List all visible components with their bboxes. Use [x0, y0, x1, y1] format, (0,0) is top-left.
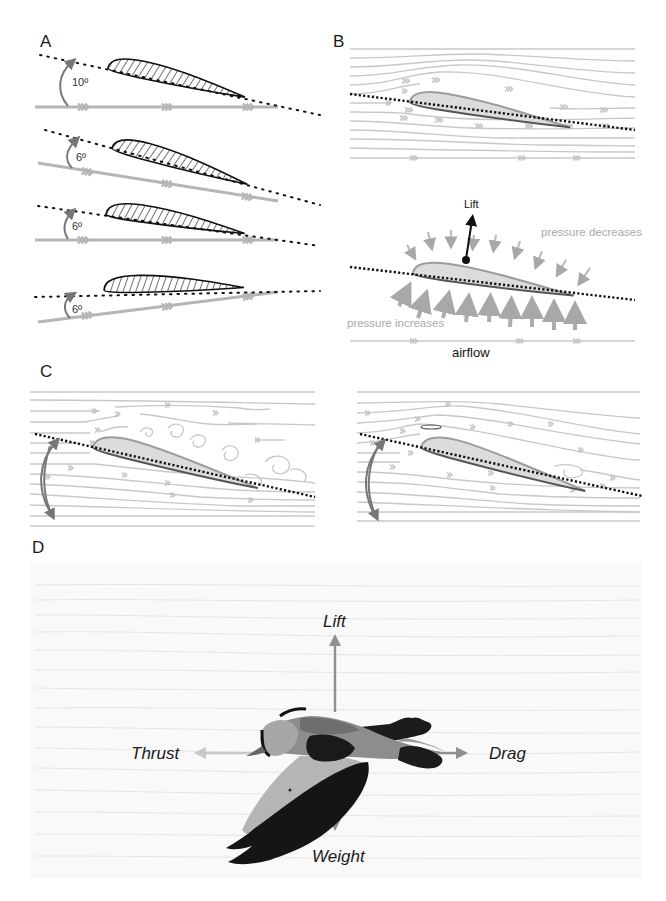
panel-label-a: A [40, 32, 51, 52]
pressure-decreases-label: pressure decreases [541, 226, 642, 238]
panel-c-left-stalled [30, 392, 315, 526]
force-label-drag: Drag [489, 744, 526, 764]
angle-label-row-3: 6º [72, 220, 82, 232]
panel-c-right-attached [357, 392, 642, 521]
force-label-weight: Weight [312, 847, 365, 867]
lift-label-b: Lift [464, 198, 479, 210]
panel-label-c: C [40, 362, 52, 382]
airflow-label: airflow [452, 345, 490, 360]
figure-artwork [0, 0, 666, 901]
panel-label-d: D [32, 538, 44, 558]
angle-label-row-1: 10º [72, 76, 88, 88]
panel-a-artwork [35, 54, 320, 322]
airfoil-row-2 [38, 130, 320, 205]
figure-caption-clipped [0, 893, 666, 901]
force-label-lift: Lift [323, 612, 346, 632]
angle-label-row-4: 6º [72, 303, 82, 315]
panel-label-b: B [333, 32, 344, 52]
angle-label-row-2: 6º [76, 151, 86, 163]
pressure-increases-label: pressure increases [347, 317, 444, 329]
force-label-thrust: Thrust [131, 744, 179, 764]
